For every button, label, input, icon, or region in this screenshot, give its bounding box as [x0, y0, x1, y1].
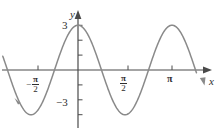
y-tick-label-3: 3 [62, 20, 68, 31]
x-axis-group [2, 67, 212, 74]
x-axis-arrow-icon [203, 67, 212, 74]
minus-sign-glyph: − [26, 80, 31, 89]
x-axis-ticks [38, 66, 172, 71]
y-axis-group [75, 10, 82, 128]
y-tick-label-neg-3: −3 [56, 97, 68, 108]
x-tick-label-neg-half-pi: − π 2 [26, 74, 39, 94]
fraction-denominator: 2 [32, 85, 39, 94]
y-axis-arrow-icon [75, 10, 82, 19]
graph-figure: y x 3 −3 − π 2 π 2 π [0, 0, 222, 131]
x-axis-label: x [209, 76, 214, 87]
y-axis-label: y [70, 9, 75, 20]
x-tick-label-half-pi: π 2 [120, 74, 127, 94]
curve-right-arrow-icon [200, 77, 206, 85]
plot-canvas [0, 0, 222, 131]
x-tick-label-pi: π [167, 74, 172, 84]
fraction-denominator: 2 [120, 84, 127, 93]
